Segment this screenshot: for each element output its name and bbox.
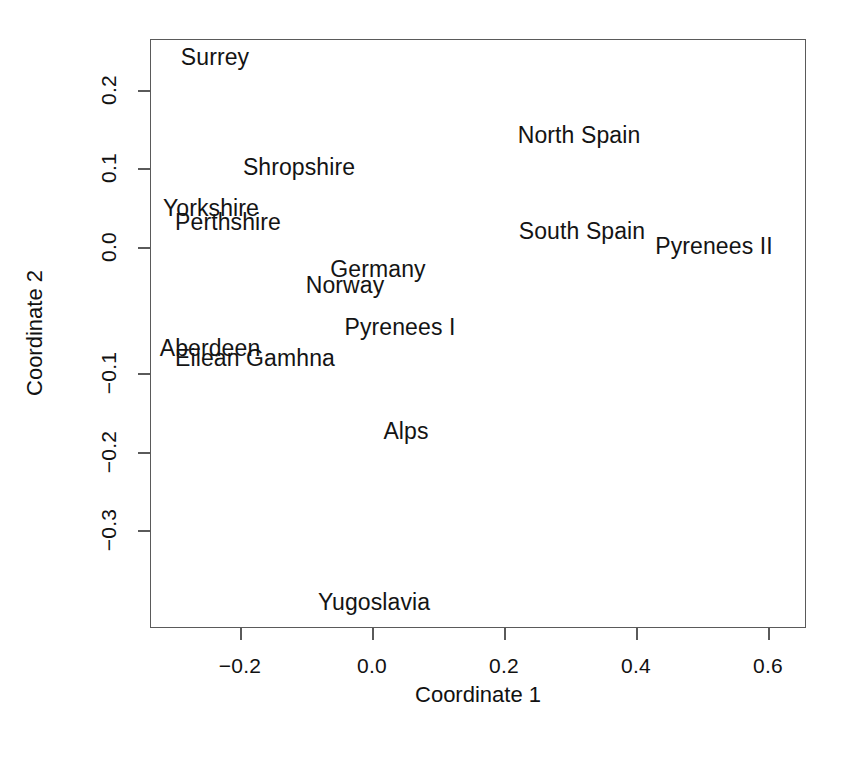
point-label: Yugoslavia	[318, 591, 430, 614]
y-tick-label: 0.1	[98, 153, 119, 183]
x-tick-mark	[372, 628, 374, 640]
point-label: Norway	[306, 274, 385, 297]
y-tick-mark	[138, 90, 150, 92]
x-tick-mark	[768, 628, 770, 640]
y-tick-mark	[138, 168, 150, 170]
y-tick-mark	[138, 452, 150, 454]
y-tick-mark	[138, 247, 150, 249]
point-label: Perthshire	[175, 211, 281, 234]
point-label: Eilean Gamhna	[175, 347, 335, 370]
y-axis-title: Coordinate 2	[24, 270, 46, 396]
x-axis-title: Coordinate 1	[415, 684, 541, 706]
y-tick-label: 0.2	[98, 75, 119, 105]
y-tick-label: 0.0	[98, 232, 119, 262]
point-label: Pyrenees I	[345, 316, 456, 339]
y-tick-label: −0.3	[98, 509, 119, 552]
x-tick-mark	[504, 628, 506, 640]
x-tick-label: 0.0	[357, 655, 387, 676]
y-tick-label: −0.2	[98, 431, 119, 474]
plot-frame	[150, 39, 806, 628]
x-tick-label: 0.2	[489, 655, 519, 676]
x-tick-mark	[636, 628, 638, 640]
y-tick-mark	[138, 530, 150, 532]
point-label: Shropshire	[243, 156, 355, 179]
scatter-plot: −0.20.00.20.40.6 0.20.10.0−0.1−0.2−0.3 S…	[0, 0, 848, 761]
point-label: North Spain	[518, 124, 641, 147]
point-label: Surrey	[181, 46, 249, 69]
y-tick-mark	[138, 373, 150, 375]
x-tick-mark	[240, 628, 242, 640]
point-label: Alps	[383, 420, 428, 443]
x-tick-label: 0.6	[753, 655, 783, 676]
y-tick-label: −0.1	[98, 352, 119, 395]
x-tick-label: 0.4	[621, 655, 651, 676]
point-label: Pyrenees II	[655, 235, 772, 258]
x-tick-label: −0.2	[219, 655, 262, 676]
point-label: South Spain	[519, 220, 645, 243]
